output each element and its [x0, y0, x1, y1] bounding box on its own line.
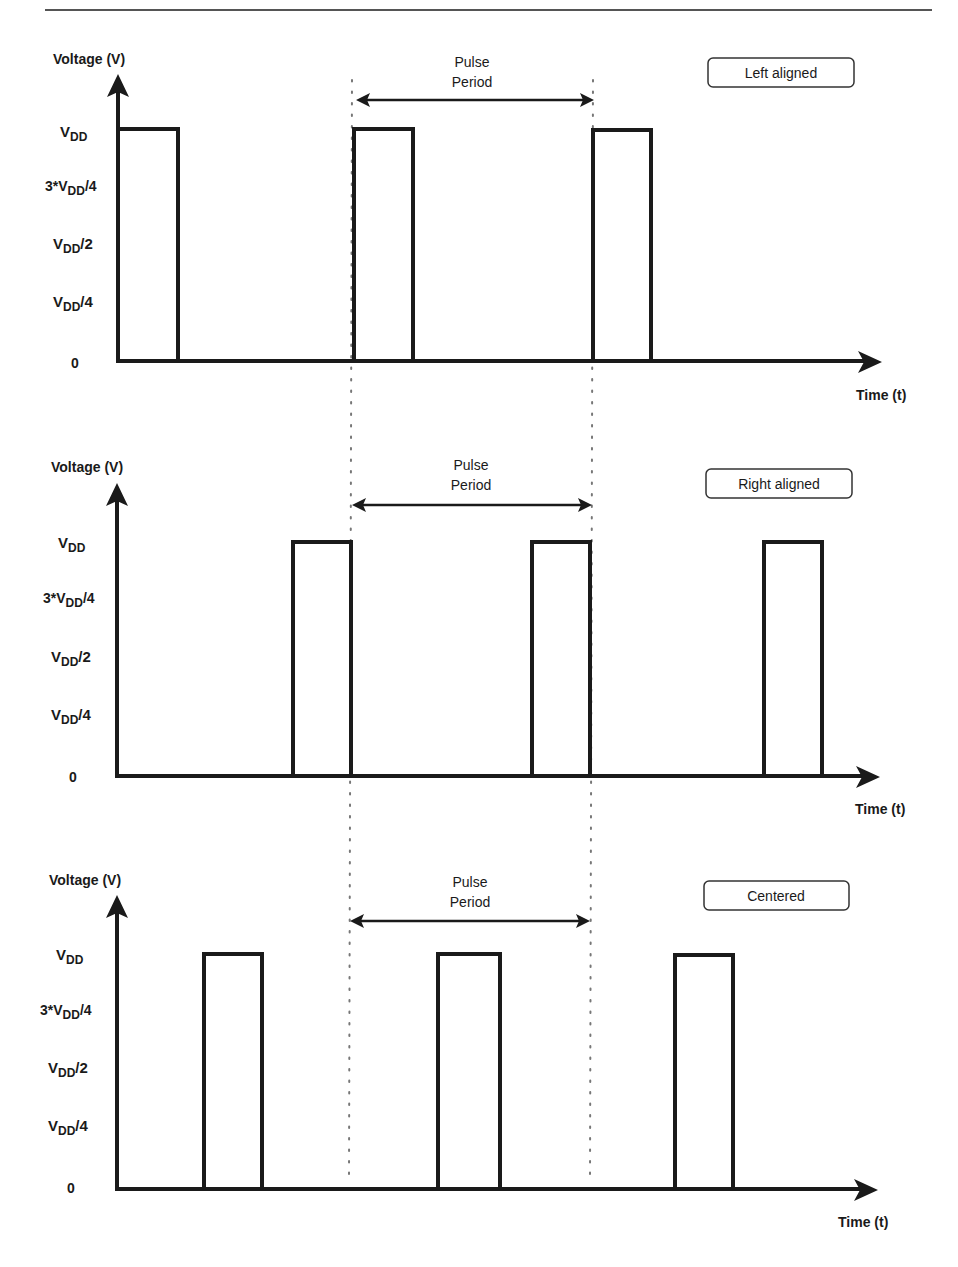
x-axis-label: Time (t) [838, 1214, 888, 1230]
pulse [532, 542, 590, 776]
mode-label: Centered [747, 888, 805, 904]
panel-right-aligned: Voltage (V) Time (t) VDD 3*VDD/4 VDD/2 V… [43, 457, 905, 817]
pulse [764, 542, 822, 776]
y-axis-label: Voltage (V) [53, 51, 125, 67]
tick-vdd: VDD [60, 123, 88, 144]
tick-zero: 0 [67, 1180, 75, 1196]
pulse-period-label: Pulse [454, 54, 489, 70]
x-axis-label: Time (t) [856, 387, 906, 403]
mode-label: Left aligned [745, 65, 817, 81]
pulse [354, 129, 413, 361]
tick-3vdd4: 3*VDD/4 [40, 1002, 92, 1022]
tick-vdd2: VDD/2 [53, 235, 93, 256]
pulse [675, 955, 733, 1189]
pulse-period-label: Pulse [453, 457, 488, 473]
pulse [204, 954, 262, 1189]
tick-vdd4: VDD/4 [53, 293, 94, 314]
tick-vdd: VDD [58, 534, 86, 555]
tick-zero: 0 [69, 769, 77, 785]
panel-centered: Voltage (V) Time (t) VDD 3*VDD/4 VDD/2 V… [40, 872, 888, 1230]
pulse-period-label: Period [450, 894, 490, 910]
pulse [593, 130, 651, 361]
tick-zero: 0 [71, 355, 79, 371]
pulse [438, 954, 500, 1189]
mode-label: Right aligned [738, 476, 820, 492]
tick-vdd2: VDD/2 [51, 648, 91, 669]
tick-3vdd4: 3*VDD/4 [43, 590, 95, 610]
pulse-period-label: Period [452, 74, 492, 90]
panel-left-aligned: Voltage (V) Time (t) VDD 3*VDD/4 VDD/2 V… [45, 51, 906, 403]
pwm-alignment-diagram: Voltage (V) Time (t) VDD 3*VDD/4 VDD/2 V… [0, 0, 958, 1267]
tick-3vdd4: 3*VDD/4 [45, 178, 97, 198]
pulse-period-label: Pulse [452, 874, 487, 890]
y-axis-label: Voltage (V) [51, 459, 123, 475]
y-axis-label: Voltage (V) [49, 872, 121, 888]
tick-vdd4: VDD/4 [51, 706, 92, 727]
pulse [293, 542, 351, 776]
tick-vdd4: VDD/4 [48, 1117, 89, 1138]
tick-vdd2: VDD/2 [48, 1059, 88, 1080]
pulse [118, 129, 178, 361]
pulse-period-label: Period [451, 477, 491, 493]
x-axis-label: Time (t) [855, 801, 905, 817]
tick-vdd: VDD [56, 946, 84, 967]
